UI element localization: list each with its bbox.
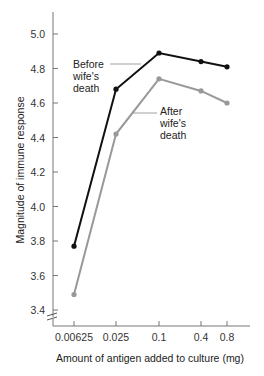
y-tick-label: 4.8 (30, 63, 45, 75)
data-point (156, 50, 161, 55)
x-tick-label: 0.8 (220, 331, 235, 343)
x-tick-label: 0.025 (103, 331, 129, 343)
y-tick-label: 4.2 (30, 166, 45, 178)
axis-break-mark (47, 317, 57, 320)
y-tick-label: 4.0 (30, 201, 45, 213)
annotations: Beforewife'sdeathAfterwife'sdeath (72, 58, 186, 141)
y-tick-label: 4.4 (30, 132, 45, 144)
x-tick-label: 0.00625 (55, 331, 93, 343)
series-annotation: death (73, 82, 99, 94)
y-tick-label: 5.0 (30, 28, 45, 40)
series-annotation: wife's (72, 70, 99, 82)
y-tick-label: 4.6 (30, 97, 45, 109)
y-tick-label: 3.8 (30, 235, 45, 247)
series-annotation: Before (73, 58, 104, 70)
y-tick-label: 3.4 (30, 304, 45, 316)
axis-break-mark (47, 313, 57, 316)
x-ticks: 0.006250.0250.10.40.8 (55, 321, 234, 343)
series-line (74, 79, 227, 295)
series-annotation: After (160, 105, 183, 117)
data-point (198, 59, 203, 64)
data-point (113, 131, 118, 136)
series-annotation: wife's (159, 117, 186, 129)
x-tick-label: 0.1 (152, 331, 167, 343)
series-annotation: death (160, 129, 186, 141)
data-point (156, 76, 161, 81)
y-axis-title: Magnitude of immune response (14, 96, 26, 243)
data-point (198, 88, 203, 93)
line-chart: 3.43.63.84.04.24.44.64.85.0 0.006250.025… (0, 0, 264, 376)
data-point (113, 87, 118, 92)
data-point (224, 64, 229, 69)
data-point (71, 292, 76, 297)
x-tick-label: 0.4 (194, 331, 209, 343)
x-axis-title: Amount of antigen added to culture (mg) (56, 352, 244, 364)
data-point (224, 100, 229, 105)
y-tick-label: 3.6 (30, 270, 45, 282)
y-ticks: 3.43.63.84.04.24.44.64.85.0 (30, 28, 58, 316)
data-point (71, 244, 76, 249)
